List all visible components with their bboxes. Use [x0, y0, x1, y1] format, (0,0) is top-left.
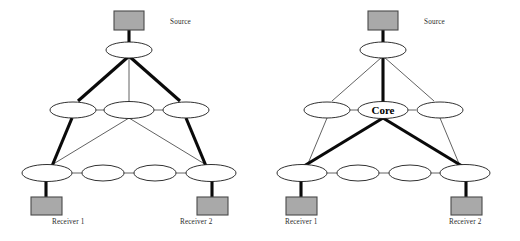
receiver-1-label: Receiver 1 — [285, 218, 318, 226]
link-top-to-mid-right — [130, 57, 180, 101]
router-bottom-4[interactable] — [440, 165, 490, 182]
router-top[interactable] — [360, 42, 406, 58]
router-bottom-4[interactable] — [186, 165, 236, 182]
receiver-2-host[interactable] — [197, 197, 228, 215]
source-label: Source — [170, 18, 191, 26]
source-label: Source — [424, 18, 445, 26]
router-mid-left[interactable] — [304, 102, 350, 118]
source-host[interactable] — [368, 11, 398, 30]
router-bottom-1[interactable] — [22, 165, 72, 182]
receiver-2-host[interactable] — [451, 197, 482, 215]
router-mid-center[interactable] — [104, 102, 154, 119]
router-top[interactable] — [106, 42, 152, 58]
router-mid-right[interactable] — [417, 102, 463, 118]
router-mid-right[interactable] — [163, 102, 209, 118]
receiver-2-label: Receiver 2 — [449, 218, 482, 226]
router-bottom-1[interactable] — [277, 165, 327, 182]
router-bottom-3[interactable] — [389, 165, 431, 181]
link-core-to-bottom-1 — [304, 118, 383, 166]
left-diagram: Source Receiver 1 Receiver 2 — [22, 11, 236, 226]
receiver-1-label: Receiver 1 — [52, 218, 85, 226]
router-bottom-3[interactable] — [134, 165, 176, 181]
link-top-to-mid-left — [332, 57, 382, 101]
core-label: Core — [371, 104, 394, 116]
link-top-to-mid-left — [78, 57, 128, 101]
right-diagram: Core Source Receiver 1 Receiver 2 — [277, 11, 490, 226]
receiver-1-host[interactable] — [286, 197, 317, 215]
network-diagram-figure: Source Receiver 1 Receiver 2 — [0, 0, 520, 241]
receiver-2-label: Receiver 2 — [180, 218, 213, 226]
link-top-to-mid-right — [384, 57, 434, 101]
receiver-1-host[interactable] — [31, 197, 62, 215]
router-bottom-2[interactable] — [82, 165, 124, 181]
router-bottom-2[interactable] — [337, 165, 379, 181]
source-host[interactable] — [114, 11, 144, 30]
router-mid-left[interactable] — [50, 102, 96, 118]
